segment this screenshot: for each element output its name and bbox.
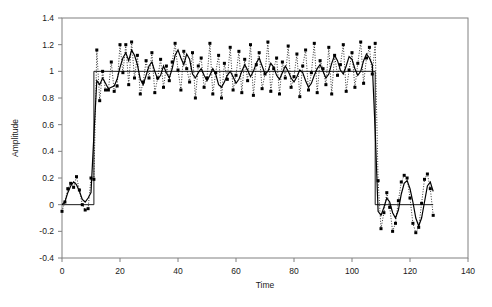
data-point-marker xyxy=(145,59,148,62)
x-tick-label: 0 xyxy=(60,266,65,276)
data-point-marker xyxy=(414,231,417,234)
y-tick-label: 0.2 xyxy=(42,173,54,183)
data-point-marker xyxy=(429,187,432,190)
data-point-marker xyxy=(246,79,249,82)
data-point-marker xyxy=(365,57,368,60)
data-point-marker xyxy=(110,61,113,64)
data-point-marker xyxy=(377,179,380,182)
data-point-marker xyxy=(159,58,162,61)
data-point-marker xyxy=(243,58,246,61)
y-tick-label: 1 xyxy=(49,66,54,76)
data-point-marker xyxy=(127,83,130,86)
y-axis-title: Amplitude xyxy=(10,119,20,157)
data-point-marker xyxy=(406,177,409,180)
data-point-marker xyxy=(95,49,98,52)
data-point-marker xyxy=(380,227,383,230)
plot-border xyxy=(62,18,468,258)
data-point-marker xyxy=(339,63,342,66)
data-point-marker xyxy=(69,182,72,185)
data-point-marker xyxy=(316,91,319,94)
data-point-marker xyxy=(319,59,322,62)
data-point-marker xyxy=(374,42,377,45)
data-point-marker xyxy=(226,78,229,81)
data-point-marker xyxy=(258,51,261,54)
data-point-marker xyxy=(133,77,136,80)
data-point-marker xyxy=(324,83,327,86)
data-point-marker xyxy=(75,175,78,178)
data-point-marker xyxy=(266,41,269,44)
data-point-marker xyxy=(403,174,406,177)
data-point-marker xyxy=(72,186,75,189)
data-point-marker xyxy=(150,51,153,54)
data-point-marker xyxy=(353,86,356,89)
y-tick-label: 0 xyxy=(49,200,54,210)
data-point-marker xyxy=(223,62,226,65)
data-point-marker xyxy=(240,91,243,94)
data-point-marker xyxy=(206,77,209,80)
data-point-marker xyxy=(66,187,69,190)
data-point-marker xyxy=(345,90,348,93)
data-point-marker xyxy=(409,197,412,200)
plot-frame xyxy=(62,18,468,258)
data-point-marker xyxy=(281,61,284,64)
data-point-marker xyxy=(420,202,423,205)
data-point-marker xyxy=(388,206,391,209)
data-point-marker xyxy=(121,71,124,74)
y-tick-label: 0.4 xyxy=(42,146,54,156)
data-point-marker xyxy=(203,86,206,89)
chart-plot-area: -0.4-0.200.20.40.60.811.21.4 02040608010… xyxy=(0,0,492,307)
data-point-marker xyxy=(171,61,174,64)
data-point-marker xyxy=(61,210,64,213)
y-tick-label: -0.2 xyxy=(39,226,54,236)
data-point-marker xyxy=(87,207,90,210)
data-point-marker xyxy=(84,209,87,212)
chart-figure: -0.4-0.200.20.40.60.811.21.4 02040608010… xyxy=(0,0,492,307)
data-point-marker xyxy=(104,89,107,92)
x-tick-label: 40 xyxy=(173,266,183,276)
data-point-marker xyxy=(208,42,211,45)
data-point-marker xyxy=(310,71,313,74)
data-point-marker xyxy=(272,67,275,70)
data-point-marker xyxy=(197,65,200,68)
data-point-marker xyxy=(255,63,258,66)
data-point-marker xyxy=(235,74,238,77)
data-point-marker xyxy=(397,199,400,202)
data-point-marker xyxy=(148,77,151,80)
data-point-marker xyxy=(101,70,104,73)
data-point-marker xyxy=(78,189,81,192)
data-point-marker xyxy=(90,177,93,180)
data-point-marker xyxy=(307,89,310,92)
data-point-marker xyxy=(217,54,220,57)
x-axis-title: Time xyxy=(256,280,275,290)
data-point-marker xyxy=(211,93,214,96)
data-point-marker xyxy=(177,69,180,72)
x-tick-label: 60 xyxy=(231,266,241,276)
data-point-marker xyxy=(356,62,359,65)
data-point-marker xyxy=(327,46,330,49)
data-point-marker xyxy=(153,91,156,94)
data-point-marker xyxy=(162,86,165,89)
data-point-marker xyxy=(275,57,278,60)
y-tick-label: 0.8 xyxy=(42,93,54,103)
data-point-marker xyxy=(188,81,191,84)
data-point-marker xyxy=(400,181,403,184)
data-point-marker xyxy=(287,45,290,48)
data-point-marker xyxy=(304,49,307,52)
data-point-marker xyxy=(185,67,188,70)
y-tick-label: 1.2 xyxy=(42,40,54,50)
data-point-marker xyxy=(382,211,385,214)
data-point-marker xyxy=(174,42,177,45)
x-tick-label: 120 xyxy=(403,266,417,276)
data-point-marker xyxy=(261,87,264,90)
data-point-marker xyxy=(168,79,171,82)
data-point-marker xyxy=(191,51,194,54)
data-point-marker xyxy=(179,89,182,92)
data-point-marker xyxy=(313,42,316,45)
data-point-marker xyxy=(107,89,110,92)
data-point-marker xyxy=(81,203,84,206)
data-point-marker xyxy=(342,43,345,46)
data-point-marker xyxy=(264,73,267,76)
data-point-marker xyxy=(417,226,420,229)
data-point-marker xyxy=(124,43,127,46)
data-point-marker xyxy=(293,75,296,78)
